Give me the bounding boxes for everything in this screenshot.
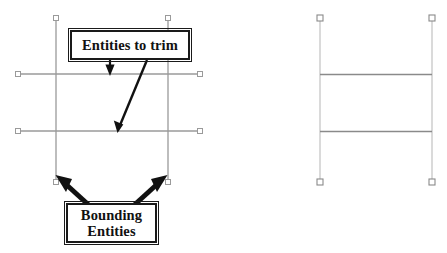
callout-bounding-entities-label-line1: Bounding (81, 207, 142, 223)
arrow-to-upper-trim-line (105, 60, 114, 76)
arrow-to-lower-trim-line (114, 60, 147, 133)
callout-bounding-entities[interactable]: Bounding Entities (66, 203, 157, 243)
callout-bounding-entities-label-line2: Entities (81, 223, 142, 239)
diagram-canvas: Entities to trim Bounding Entities (0, 0, 447, 253)
callout-entities-to-trim[interactable]: Entities to trim (70, 30, 190, 60)
callout-entities-to-trim-label: Entities to trim (82, 37, 178, 53)
callout-bounding-entities-label: Bounding Entities (81, 207, 142, 239)
